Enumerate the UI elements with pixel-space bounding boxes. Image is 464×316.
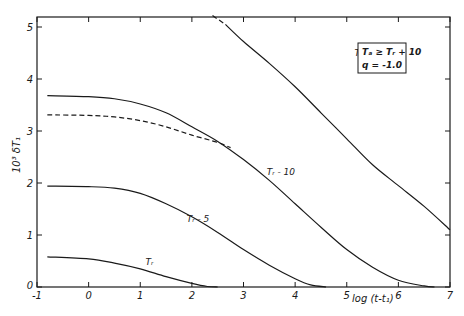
x-tick-label: 2 <box>189 290 195 301</box>
y-tick-label: 5 <box>27 22 33 33</box>
curve-label: Tᵣ - 5 <box>187 214 210 224</box>
curve-labels: Tᵣ - 15Tᵣ - 10Tᵣ - 5Tᵣ <box>145 48 383 268</box>
x-tick-label: -1 <box>32 290 42 301</box>
x-tick-label: 1 <box>137 290 143 301</box>
series-line <box>47 186 326 287</box>
x-tick-label: 5 <box>344 290 350 301</box>
series-line <box>47 96 434 287</box>
x-tick-label: 4 <box>292 290 298 301</box>
legend-line-2: q = -1.0 <box>362 60 402 70</box>
series-line <box>47 115 230 148</box>
chart: -101234567 012345 Tᵣ - 15Tᵣ - 10Tᵣ - 5Tᵣ… <box>0 0 464 316</box>
x-axis-title: log (t-t₁) <box>352 293 394 304</box>
legend-box: Tₐ ≥ Tᵣ + 10 q = -1.0 <box>358 43 421 73</box>
y-tick-label: 4 <box>27 74 33 85</box>
y-tick-label: 2 <box>27 178 33 189</box>
y-tick-label: 3 <box>27 126 33 137</box>
x-tick-label: 0 <box>85 290 91 301</box>
y-tick-label: 0 <box>27 280 33 291</box>
curve-label: Tᵣ <box>145 257 153 267</box>
legend-line-1: Tₐ ≥ Tᵣ + 10 <box>362 47 421 57</box>
x-tick-label: 6 <box>395 290 401 301</box>
x-tick-label: 7 <box>447 290 454 301</box>
y-tick-label: 1 <box>27 230 33 241</box>
curve-label: Tᵣ - 10 <box>267 167 296 177</box>
x-tick-label: 3 <box>240 290 246 301</box>
y-axis-title: 10³ δT₁ <box>11 137 22 173</box>
